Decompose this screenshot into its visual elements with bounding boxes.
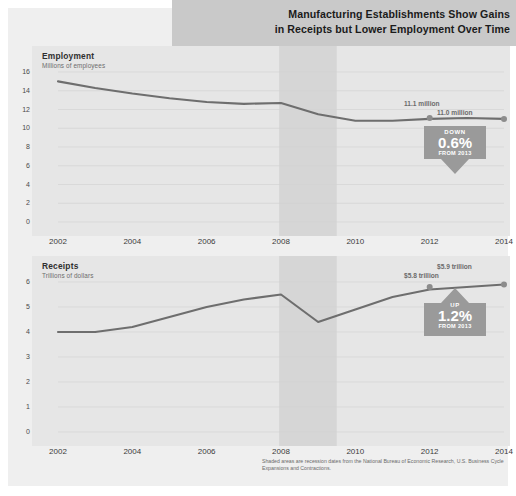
receipts-change-badge: UP 1.2% FROM 2013 — [424, 288, 486, 340]
data-point-marker — [427, 115, 433, 121]
x-axis-tick-label: 2014 — [484, 447, 516, 456]
source-footnote: Shaded areas are recession dates from th… — [262, 458, 506, 472]
recession-shade — [279, 256, 337, 446]
page-title-line-1: Manufacturing Establishments Show Gains — [180, 7, 510, 22]
receipts-chart-header: Receipts Trillions of dollars — [42, 261, 93, 279]
y-axis-tick-label: 0 — [8, 218, 30, 225]
y-axis-tick-label: 10 — [8, 124, 30, 131]
x-axis-tick-label: 2004 — [112, 447, 152, 456]
y-axis-tick-label: 4 — [8, 181, 30, 188]
y-axis-tick-label: 4 — [8, 328, 30, 335]
receipts-chart-subtitle: Trillions of dollars — [42, 272, 93, 279]
y-axis-tick-label: 6 — [8, 162, 30, 169]
y-axis-tick-label: 6 — [8, 278, 30, 285]
data-point-marker — [501, 282, 507, 288]
x-axis-tick-label: 2012 — [410, 237, 450, 246]
receipts-callout-1: $5.8 trillion — [404, 272, 439, 279]
employment-callout-2: 11.0 million — [437, 109, 473, 116]
x-axis-tick-label: 2008 — [261, 237, 301, 246]
x-axis-tick-label: 2008 — [261, 447, 301, 456]
x-axis-tick-label: 2002 — [38, 237, 78, 246]
employment-badge-value: 0.6% — [424, 135, 486, 150]
x-axis-tick-label: 2010 — [335, 237, 375, 246]
x-axis-tick-label: 2014 — [484, 237, 516, 246]
y-axis-tick-label: 12 — [8, 106, 30, 113]
y-axis-tick-label: 16 — [8, 68, 30, 75]
receipts-badge-value: 1.2% — [424, 308, 486, 323]
y-axis-tick-label: 8 — [8, 143, 30, 150]
receipts-plot — [32, 256, 510, 446]
x-axis-tick-label: 2012 — [410, 447, 450, 456]
employment-callout-1: 11.1 million — [404, 100, 440, 107]
receipts-chart-title: Receipts — [42, 261, 93, 271]
x-axis-tick-label: 2010 — [335, 447, 375, 456]
y-axis-tick-label: 3 — [8, 353, 30, 360]
employment-chart-subtitle: Millions of employees — [42, 62, 105, 69]
y-axis-tick-label: 2 — [8, 199, 30, 206]
y-axis-tick-label: 14 — [8, 87, 30, 94]
y-axis-tick-label: 5 — [8, 303, 30, 310]
page-title: Manufacturing Establishments Show Gains … — [180, 7, 510, 37]
recession-shade — [279, 46, 337, 236]
x-axis-tick-label: 2002 — [38, 447, 78, 456]
x-axis-tick-label: 2006 — [187, 237, 227, 246]
employment-chart-title: Employment — [42, 51, 105, 61]
infographic-root: Manufacturing Establishments Show Gains … — [0, 0, 516, 496]
employment-chart-header: Employment Millions of employees — [42, 51, 105, 69]
x-axis-tick-label: 2004 — [112, 237, 152, 246]
employment-change-badge: DOWN 0.6% FROM 2013 — [424, 126, 486, 178]
employment-badge-from: FROM 2013 — [424, 150, 486, 156]
y-axis-tick-label: 0 — [8, 428, 30, 435]
data-point-marker — [501, 116, 507, 122]
y-axis-tick-label: 2 — [8, 378, 30, 385]
page-title-line-2: in Receipts but Lower Employment Over Ti… — [180, 22, 510, 37]
receipts-callout-2: $5.9 trillion — [437, 263, 472, 270]
y-axis-tick-label: 1 — [8, 403, 30, 410]
x-axis-tick-label: 2006 — [187, 447, 227, 456]
receipts-badge-from: FROM 2013 — [424, 323, 486, 329]
receipts-chart-panel: Receipts Trillions of dollars — [32, 256, 510, 446]
